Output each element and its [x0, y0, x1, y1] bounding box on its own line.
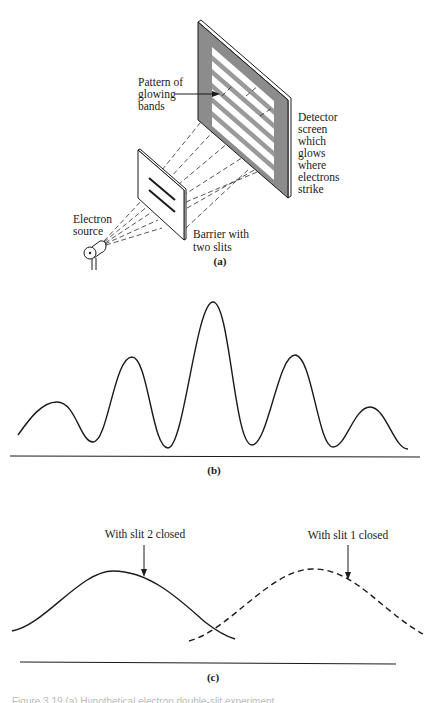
- panel-a-label: (a): [214, 255, 227, 268]
- label-slit-1-closed: With slit 1 closed: [308, 529, 389, 541]
- double-slit-figure: Pattern of glowing bands Detector screen…: [0, 0, 443, 703]
- baseline-b: [10, 456, 420, 457]
- detector-label: Detector screen which glows where electr…: [298, 111, 342, 195]
- interference-curve: [18, 302, 408, 449]
- barrier: [138, 149, 186, 240]
- panel-b-interference: (b): [10, 302, 420, 477]
- electron-source-icon: [84, 241, 106, 270]
- panel-c-single-slits: With slit 2 closed With slit 1 closed (c…: [12, 528, 423, 684]
- panel-c-label: (c): [207, 671, 220, 684]
- detector-screen: [198, 20, 291, 198]
- arrow-slit-1: [345, 545, 351, 580]
- source-label: Electron source: [73, 213, 115, 237]
- barrier-label: Barrier with two slits: [193, 228, 252, 253]
- panel-b-label: (b): [207, 464, 221, 477]
- figure-caption: Figure 3.19 (a) Hypothetical electron do…: [12, 695, 432, 703]
- panel-a-apparatus: Pattern of glowing bands Detector screen…: [73, 20, 342, 270]
- curve-slit-2-closed: [12, 571, 235, 639]
- label-slit-2-closed: With slit 2 closed: [105, 528, 186, 540]
- arrow-slit-2: [141, 545, 147, 577]
- curve-slit-1-closed: [189, 569, 423, 641]
- baseline-c: [20, 662, 396, 664]
